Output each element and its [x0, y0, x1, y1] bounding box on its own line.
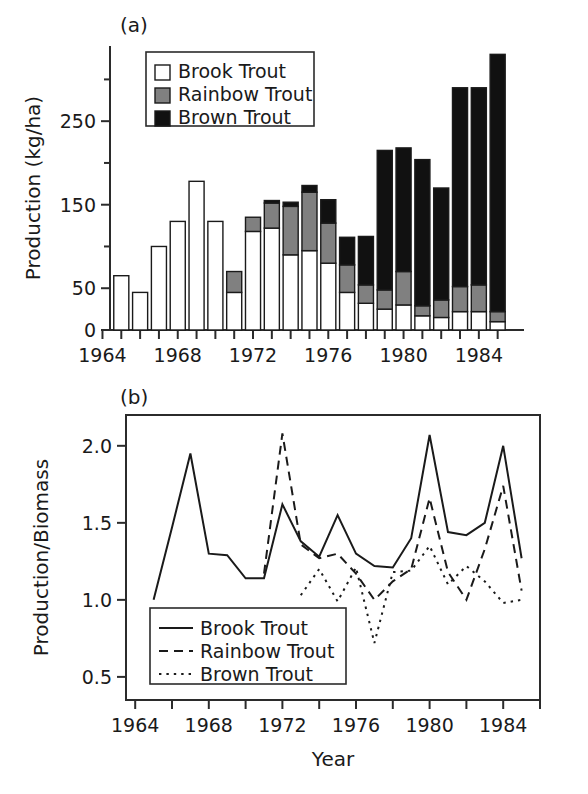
panel-a-x-tick-label: 1984	[455, 344, 503, 366]
panel-a-y-tick-label: 0	[84, 319, 96, 341]
panel-b-y-tick-label: 0.5	[82, 666, 112, 688]
panel-a-label: (a)	[120, 13, 148, 37]
bar-segment-rainbow	[490, 312, 505, 322]
panel-a-legend-label: Brook Trout	[178, 60, 286, 82]
panel-a-x-tick-label: 1976	[304, 344, 352, 366]
bar-segment-brook	[151, 246, 166, 330]
panel-a-y-tick-label: 250	[60, 110, 96, 132]
figure-svg: (a)050150250Production (kg/ha)1964196819…	[0, 0, 588, 794]
bar-segment-rainbow	[227, 272, 242, 293]
panel-b-x-tick-label: 1972	[258, 714, 306, 736]
panel-a-x-tick-label: 1964	[78, 344, 126, 366]
bar-segment-brown	[302, 185, 317, 192]
bar-segment-rainbow	[415, 306, 430, 316]
bar-segment-rainbow	[396, 272, 411, 305]
bar-segment-brook	[358, 303, 373, 330]
panel-b-x-tick-label: 1976	[332, 714, 380, 736]
bar-segment-brown	[471, 88, 486, 285]
panel-a-legend-label: Rainbow Trout	[178, 83, 312, 105]
panel-b-y-axis-title: Production/Biomass	[29, 459, 53, 656]
bar-segment-brook	[227, 292, 242, 330]
bar-segment-brook	[208, 221, 223, 330]
panel-b-legend-label: Rainbow Trout	[200, 640, 334, 662]
bar-segment-rainbow	[434, 300, 449, 318]
panel-a: (a)050150250Production (kg/ha)1964196819…	[21, 13, 524, 366]
panel-b-line-brook	[154, 435, 522, 600]
panel-a-legend-open-square-icon	[155, 65, 170, 80]
panel-b-x-axis-title: Year	[311, 747, 355, 771]
bar-segment-rainbow	[452, 287, 467, 312]
bar-segment-brown	[321, 200, 336, 223]
bar-segment-rainbow	[283, 206, 298, 254]
bar-segment-brown	[396, 148, 411, 272]
panel-a-legend-label: Brown Trout	[178, 106, 291, 128]
bar-segment-brown	[415, 160, 430, 306]
panel-b-line-rainbow	[264, 433, 522, 599]
bar-segment-brook	[396, 305, 411, 330]
bar-segment-brook	[245, 231, 260, 330]
bar-segment-rainbow	[321, 223, 336, 263]
panel-b-y-tick-label: 1.5	[82, 512, 112, 534]
panel-b-x-tick-label: 1964	[111, 714, 159, 736]
bar-segment-brown	[358, 236, 373, 284]
panel-a-y-axis-title: Production (kg/ha)	[21, 96, 45, 280]
bar-segment-brown	[452, 88, 467, 287]
panel-b-x-tick-label: 1968	[185, 714, 233, 736]
bar-segment-brook	[321, 263, 336, 330]
bar-segment-rainbow	[340, 265, 355, 293]
panel-a-y-tick-label: 150	[60, 194, 96, 216]
bar-segment-brown	[434, 188, 449, 300]
bar-segment-brown	[377, 150, 392, 289]
bar-segment-brook	[490, 322, 505, 330]
panel-b-legend-label: Brook Trout	[200, 617, 308, 639]
bar-segment-brown	[340, 237, 355, 265]
panel-b: (b)0.51.01.52.0Production/Biomass1964196…	[29, 385, 540, 771]
bar-segment-rainbow	[302, 192, 317, 250]
bar-segment-brown	[264, 201, 279, 204]
bar-segment-brook	[133, 292, 148, 330]
bar-segment-rainbow	[264, 203, 279, 228]
panel-b-y-tick-label: 1.0	[82, 589, 112, 611]
bar-segment-brook	[415, 316, 430, 330]
panel-b-label: (b)	[120, 385, 148, 409]
panel-a-legend-gray-square-icon	[155, 88, 170, 103]
bar-segment-brook	[377, 309, 392, 330]
panel-a-x-tick-label: 1972	[229, 344, 277, 366]
bar-segment-brook	[170, 221, 185, 330]
bar-segment-brook	[264, 228, 279, 330]
bar-segment-rainbow	[245, 217, 260, 231]
panel-a-x-tick-label: 1968	[154, 344, 202, 366]
panel-b-x-tick-label: 1980	[405, 714, 453, 736]
bar-segment-brook	[471, 312, 486, 330]
bar-segment-rainbow	[377, 290, 392, 309]
bar-segment-brook	[302, 251, 317, 330]
panel-b-y-tick-label: 2.0	[82, 435, 112, 457]
bar-segment-brown	[283, 202, 298, 206]
bar-segment-brook	[434, 317, 449, 330]
bar-segment-brown	[490, 54, 505, 311]
bar-segment-rainbow	[358, 285, 373, 303]
panel-a-legend-black-square-icon	[155, 111, 170, 126]
bar-segment-rainbow	[471, 285, 486, 312]
figure-container: (a)050150250Production (kg/ha)1964196819…	[0, 0, 588, 794]
bar-segment-brook	[189, 181, 204, 330]
bar-segment-brook	[283, 255, 298, 330]
panel-b-legend-label: Brown Trout	[200, 663, 313, 685]
bar-segment-brook	[452, 312, 467, 330]
bar-segment-brook	[114, 276, 129, 330]
bar-segment-brook	[340, 292, 355, 330]
panel-a-x-tick-label: 1980	[379, 344, 427, 366]
panel-a-y-tick-label: 50	[72, 277, 96, 299]
panel-b-x-tick-label: 1984	[479, 714, 527, 736]
